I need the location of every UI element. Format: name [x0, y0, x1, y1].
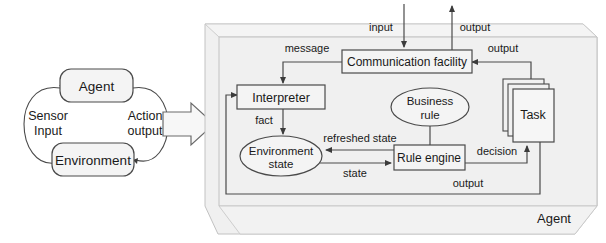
- edge-sensor-input-label-line1: Sensor: [28, 109, 68, 123]
- edge-action-output-label-line1: Action: [128, 109, 163, 123]
- edge-decision-label: decision: [477, 145, 517, 157]
- edge-input-label: input: [369, 21, 393, 33]
- edge-sensor-input-label-line2: Input: [34, 124, 62, 138]
- right-panel: Agent input output message output fact r…: [205, 4, 597, 234]
- node-environment-state-label-line2: state: [269, 158, 294, 170]
- node-rule-engine-label: Rule engine: [397, 151, 461, 165]
- edge-message-label: message: [285, 42, 330, 54]
- agent-container-top-bevel: [205, 24, 597, 37]
- left-panel: Agent Environment Sensor Input Action ou…: [24, 69, 168, 176]
- node-task-label: Task: [520, 108, 546, 122]
- edge-state-label: state: [343, 167, 367, 179]
- diagram-canvas: Agent Environment Sensor Input Action ou…: [0, 0, 606, 243]
- figure-root: Agent Environment Sensor Input Action ou…: [0, 0, 606, 243]
- node-business-rule-label-line1: Business: [407, 95, 454, 107]
- edge-output-top-label: output: [460, 21, 491, 33]
- node-interpreter-label: Interpreter: [252, 91, 310, 105]
- edge-action-output-label-line2: output: [128, 124, 163, 138]
- node-communication-facility-label: Communication facility: [347, 55, 467, 69]
- edge-fact-label: fact: [255, 114, 273, 126]
- node-business-rule-label-line2: rule: [420, 109, 439, 121]
- edge-output-task-label: output: [488, 42, 519, 54]
- node-environment-state-label-line1: Environment: [249, 145, 314, 157]
- node-environment-label: Environment: [55, 153, 131, 168]
- edge-output-loop-label: output: [453, 177, 484, 189]
- agent-container-label: Agent: [537, 211, 571, 226]
- node-agent-label: Agent: [79, 79, 115, 94]
- edge-refreshed-state-label: refreshed state: [323, 132, 396, 144]
